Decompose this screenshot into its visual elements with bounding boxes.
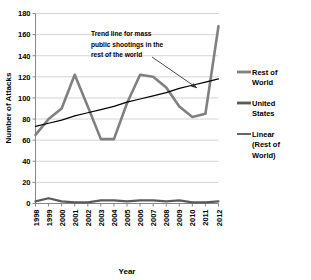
legend-label[interactable]: World bbox=[252, 78, 274, 87]
x-tick-label: 2008 bbox=[162, 210, 171, 227]
y-tick-label: 180 bbox=[18, 9, 31, 18]
x-tick-label: 2009 bbox=[175, 210, 184, 227]
y-tick-label: 40 bbox=[22, 157, 30, 166]
y-axis-title: Number of Attacks bbox=[4, 72, 13, 143]
y-tick-label: 100 bbox=[18, 94, 31, 103]
x-tick-label: 2007 bbox=[149, 210, 158, 227]
legend-label[interactable]: United bbox=[252, 99, 276, 108]
legend-label[interactable]: World) bbox=[252, 151, 276, 160]
x-tick-label: 1998 bbox=[32, 210, 41, 227]
x-axis-title: Year bbox=[119, 267, 136, 276]
legend-label[interactable]: Rest of bbox=[252, 68, 278, 77]
annotation-line: public shootings in the bbox=[91, 41, 163, 49]
x-tick-label: 2004 bbox=[110, 209, 119, 227]
x-tick-label: 2011 bbox=[201, 210, 210, 226]
annotation-line: rest of the world bbox=[91, 51, 142, 58]
y-tick-label: 120 bbox=[18, 73, 31, 82]
x-tick-label: 2010 bbox=[188, 210, 197, 227]
x-tick-label: 2012 bbox=[215, 210, 224, 227]
x-tick-label: 2003 bbox=[97, 210, 106, 227]
y-tick-label: 160 bbox=[18, 30, 31, 39]
legend-label[interactable]: States bbox=[252, 109, 275, 118]
x-tick-label: 2000 bbox=[58, 210, 67, 227]
x-tick-label: 2001 bbox=[71, 210, 80, 227]
x-tick-label: 1999 bbox=[45, 210, 54, 227]
legend-label[interactable]: (Rest of bbox=[252, 140, 280, 149]
x-tick-label: 2005 bbox=[123, 210, 132, 227]
line-chart: 020406080100120140160180 199819992000200… bbox=[0, 0, 311, 280]
x-tick-label: 2002 bbox=[84, 210, 93, 227]
y-tick-label: 60 bbox=[22, 136, 30, 145]
x-tick-label: 2006 bbox=[136, 210, 145, 227]
y-tick-label: 20 bbox=[22, 178, 30, 187]
y-tick-label: 140 bbox=[18, 52, 31, 61]
annotation-line: Trend line for mass bbox=[91, 30, 152, 37]
y-tick-label: 80 bbox=[22, 115, 30, 124]
y-tick-label: 0 bbox=[26, 199, 30, 208]
chart-container: 020406080100120140160180 199819992000200… bbox=[0, 0, 311, 280]
legend-label[interactable]: Linear bbox=[252, 130, 275, 139]
